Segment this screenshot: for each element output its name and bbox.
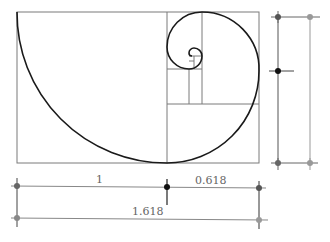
- horizontal-ratio-measure: [11, 178, 268, 229]
- golden-spiral: [17, 12, 259, 163]
- segment-label-0618: 0.618: [195, 174, 227, 187]
- golden-rectangle-grid: [17, 12, 259, 163]
- golden-spiral-diagram: [0, 0, 330, 242]
- vertical-ratio-measure: [269, 11, 320, 170]
- segment-label-1618: 1.618: [132, 205, 164, 218]
- segment-label-1: 1: [96, 173, 103, 186]
